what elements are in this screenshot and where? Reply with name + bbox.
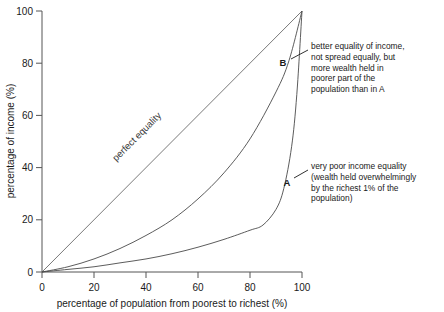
x-tick-label-20: 20 bbox=[88, 282, 100, 293]
y-tick-label-20: 20 bbox=[22, 214, 34, 225]
y-tick-label-0: 0 bbox=[27, 267, 33, 278]
y-tick-label-60: 60 bbox=[22, 110, 34, 121]
x-tick-label-100: 100 bbox=[294, 282, 311, 293]
perfect-equality-label: perfect equality bbox=[110, 110, 164, 164]
curve-tag-a: A bbox=[284, 177, 291, 188]
y-axis-ticks bbox=[36, 11, 42, 272]
leader-line-a bbox=[294, 170, 308, 178]
y-axis-title: percentage of income (%) bbox=[5, 84, 16, 199]
x-axis-title: percentage of population from poorest to… bbox=[57, 298, 288, 309]
perfect-equality-line bbox=[42, 11, 302, 272]
annotation-text-a: very poor income equality (wealth held o… bbox=[311, 161, 443, 204]
x-tick-label-40: 40 bbox=[140, 282, 152, 293]
curve-tag-b: B bbox=[280, 57, 287, 68]
lorenz-curve-figure: 100 80 60 40 20 0 0 20 40 60 80 100 perc… bbox=[0, 0, 444, 312]
annotation-text-b: better equality of income, not spread eq… bbox=[311, 41, 443, 95]
y-tick-label-100: 100 bbox=[16, 6, 33, 17]
x-tick-label-0: 0 bbox=[39, 282, 45, 293]
x-axis-ticks bbox=[42, 272, 302, 278]
x-tick-label-60: 60 bbox=[192, 282, 204, 293]
y-tick-label-40: 40 bbox=[22, 162, 34, 173]
y-tick-label-80: 80 bbox=[22, 58, 34, 69]
x-tick-label-80: 80 bbox=[244, 282, 256, 293]
